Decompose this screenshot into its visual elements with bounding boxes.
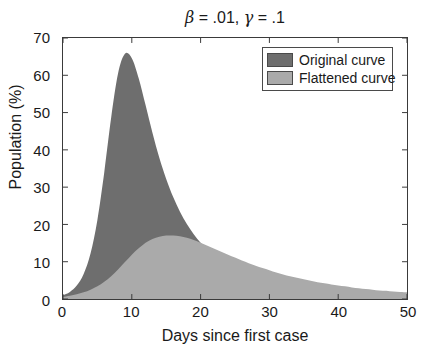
title-beta-value: = .01, [199,9,239,26]
title-gamma-value: = .1 [258,9,285,26]
x-tick-label-20: 20 [192,303,209,320]
y-tick-label-0: 0 [42,292,50,309]
x-tick-label-40: 40 [330,303,347,320]
legend-swatch-icon [267,71,293,85]
chart-title: β = .01, γ = .1 [62,8,408,28]
chart-legend: Original curveFlattened curve [262,47,393,91]
y-tick-label-20: 20 [33,216,50,233]
y-tick-label-40: 40 [33,141,50,158]
x-tick-label-50: 50 [400,303,417,320]
x-tick-label-0: 0 [58,303,66,320]
legend-swatch-icon [267,53,293,67]
x-tick-label-30: 30 [261,303,278,320]
legend-item-flattened[interactable]: Flattened curve [267,69,388,87]
y-tick-label-70: 70 [33,29,50,46]
title-beta-symbol: β [185,8,194,27]
x-axis-tick-labels: 01020304050 [62,303,408,325]
x-tick-label-10: 10 [123,303,140,320]
y-tick-label-10: 10 [33,254,50,271]
chart-figure: β = .01, γ = .1 010203040506070 Populati… [0,0,428,358]
y-tick-label-30: 30 [33,179,50,196]
y-tick-label-60: 60 [33,66,50,83]
y-axis-label: Population (%) [7,37,25,237]
y-tick-label-50: 50 [33,104,50,121]
legend-item-original[interactable]: Original curve [267,51,388,69]
title-gamma-symbol: γ [244,8,254,27]
legend-label: Flattened curve [299,71,396,85]
x-axis-label: Days since first case [62,327,408,345]
legend-label: Original curve [299,53,385,67]
